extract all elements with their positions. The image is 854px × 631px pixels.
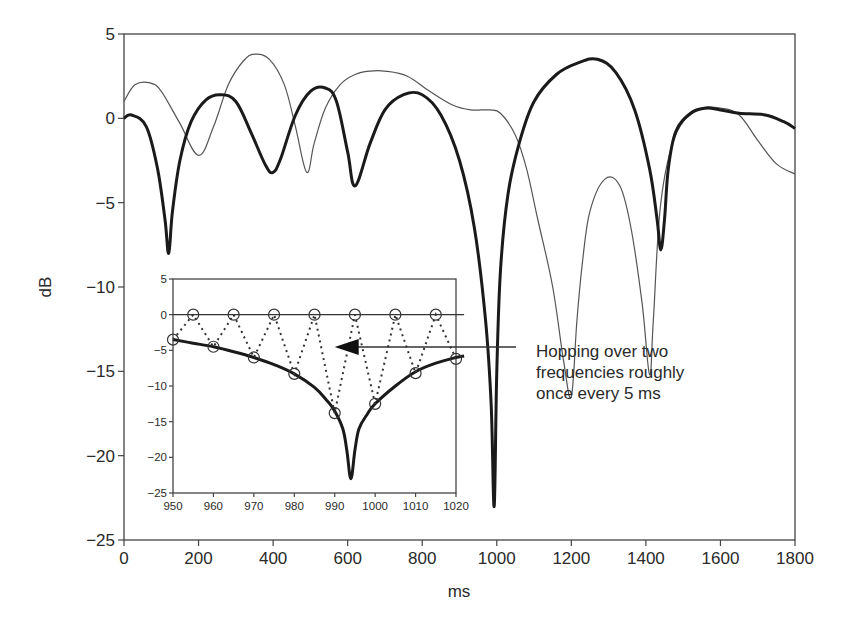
inset-x-tick-label: 980 [285,500,304,512]
annotation-text: Hopping over two frequencies roughly onc… [536,341,684,404]
inset-y-tick-label: 5 [161,273,167,285]
annotation-line-2: frequencies roughly [536,362,684,383]
main-y-tick-label: 5 [106,25,115,44]
main-x-tick-label: 400 [259,549,287,568]
inset-x-tick-label: 950 [163,500,182,512]
figure: 50−5−10−15−20−25020040060080010001200140… [0,0,854,631]
main-x-tick-label: 0 [119,549,128,568]
inset-y-tick-label: 0 [161,309,167,321]
inset-x-tick-label: 1010 [403,500,429,512]
inset-y-tick-label: −10 [147,380,167,392]
inset-y-tick-label: −15 [147,416,167,428]
inset-y-tick-label: −25 [147,487,167,499]
inset-y-tick-label: −20 [147,451,167,463]
main-y-tick-label: −10 [86,278,115,297]
inset-background [137,271,460,521]
inset-x-tick-label: 960 [204,500,223,512]
main-x-tick-label: 200 [184,549,212,568]
main-x-tick-label: 800 [408,549,436,568]
main-x-tick-label: 1200 [552,549,590,568]
main-x-tick-label: 1000 [478,549,516,568]
annotation-line-1: Hopping over two [536,341,684,362]
inset-x-tick-label: 990 [325,500,344,512]
main-x-tick-label: 1600 [702,549,740,568]
main-x-tick-label: 1400 [627,549,665,568]
annotation-line-3: once every 5 ms [536,383,684,404]
main-y-tick-label: −25 [86,531,115,550]
main-y-tick-label: −5 [96,194,115,213]
main-y-tick-label: −20 [86,447,115,466]
main-y-tick-label: −15 [86,362,115,381]
y-axis-label: dB [36,277,55,298]
main-y-tick-label: 0 [106,109,115,128]
inset-x-tick-label: 1000 [362,500,388,512]
main-x-tick-label: 1800 [776,549,814,568]
main-x-tick-label: 600 [333,549,361,568]
x-axis-label: ms [448,582,471,601]
inset-x-tick-label: 970 [244,500,263,512]
inset-x-tick-label: 1020 [443,500,469,512]
inset-y-tick-label: −5 [154,344,167,356]
